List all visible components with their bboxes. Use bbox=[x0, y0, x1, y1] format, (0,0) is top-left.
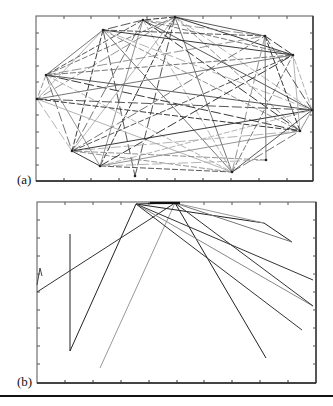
network-node bbox=[231, 171, 234, 174]
network-edge bbox=[143, 20, 232, 172]
trajectory-path bbox=[136, 204, 313, 280]
network-edge bbox=[265, 36, 266, 160]
plot-frame bbox=[37, 202, 316, 383]
network-edge bbox=[103, 30, 300, 131]
network-edge bbox=[143, 20, 293, 55]
panel-a-network bbox=[36, 16, 314, 181]
network-edge bbox=[46, 30, 103, 75]
network-node bbox=[142, 19, 145, 22]
network-edge bbox=[175, 17, 300, 131]
figure-canvas bbox=[0, 0, 333, 406]
network-node bbox=[102, 29, 105, 32]
network-edge bbox=[72, 110, 312, 151]
network-node bbox=[71, 150, 74, 153]
network-node bbox=[292, 54, 295, 57]
panel-b-paths bbox=[37, 202, 316, 383]
network-node bbox=[134, 175, 137, 178]
network-node bbox=[299, 130, 302, 133]
network-node bbox=[311, 109, 314, 112]
network-edge bbox=[103, 20, 143, 30]
trajectory-path bbox=[37, 268, 42, 285]
network-node bbox=[264, 35, 267, 38]
plot-frame bbox=[36, 16, 313, 181]
network-edge bbox=[37, 30, 103, 99]
network-node bbox=[36, 98, 39, 101]
network-node bbox=[265, 159, 268, 162]
network-node bbox=[174, 16, 177, 19]
network-edge bbox=[293, 55, 300, 131]
network-edge bbox=[232, 36, 265, 172]
network-edge bbox=[46, 75, 100, 166]
network-node bbox=[45, 74, 48, 77]
network-edge bbox=[37, 75, 46, 99]
network-edge bbox=[37, 99, 72, 151]
network-edge bbox=[103, 30, 293, 55]
panel-a-label: (a) bbox=[17, 172, 31, 188]
trajectory-path bbox=[136, 204, 302, 330]
panel-b-label: (b) bbox=[17, 374, 32, 390]
network-node bbox=[99, 165, 102, 168]
trajectory-path bbox=[70, 203, 175, 351]
network-edge bbox=[72, 151, 232, 172]
